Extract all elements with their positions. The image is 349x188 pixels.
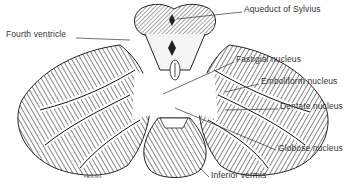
label-emboliform: Emboliform nucleus	[261, 76, 337, 86]
label-fastigial: Fastigial nucleus	[236, 54, 301, 64]
inferior-vermis-shape	[144, 118, 206, 178]
artist-signature: FANING	[84, 174, 102, 179]
label-aqueduct: Aqueduct of Sylvius	[244, 4, 321, 14]
label-inferior-vermis: Inferior vermis	[211, 170, 266, 180]
label-globose: Globose nucleus	[278, 143, 343, 153]
midbrain	[135, 4, 216, 80]
label-fourth-ventricle: Fourth ventricle	[6, 29, 66, 39]
left-hemisphere	[18, 45, 150, 175]
label-dentate: Dentate nucleus	[280, 101, 343, 111]
